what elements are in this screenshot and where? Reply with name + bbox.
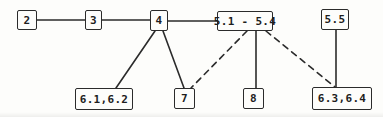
node-5.5: 5.5 (321, 9, 349, 30)
edge-4-7 (163, 31, 184, 88)
edge-4-6.1-6.2 (116, 31, 155, 88)
node-5.1-5.4: 5.1 - 5.4 (217, 11, 273, 31)
node-6.1-6.2: 6.1,6.2 (75, 88, 133, 110)
node-8: 8 (243, 88, 264, 109)
node-2: 2 (17, 10, 37, 30)
node-7: 7 (174, 88, 195, 109)
edge-5.1-5.4-7-dashed (191, 31, 247, 88)
node-4: 4 (150, 10, 168, 31)
node-3: 3 (85, 10, 102, 30)
node-6.3-6.4: 6.3,6.4 (312, 87, 372, 110)
diagram-canvas: 2345.1 - 5.45.56.1,6.2786.3,6.4 (0, 0, 383, 117)
edge-5.1-5.4-6.3-6.4-dashed (266, 31, 335, 87)
